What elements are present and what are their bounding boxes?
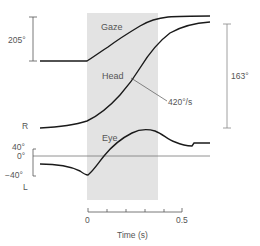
eye-0-label: 0°	[17, 151, 25, 161]
gaze-label: Gaze	[101, 22, 123, 32]
head-amplitude-bracket	[223, 24, 231, 128]
eye-label: Eye	[102, 133, 118, 143]
head-velocity-label: 420°/s	[168, 97, 192, 107]
head-amplitude-label: 163°	[231, 71, 249, 81]
eye-left-label: L	[23, 182, 28, 192]
gaze-amplitude-label: 205°	[8, 35, 26, 45]
gaze-amplitude-bracket	[29, 17, 37, 61]
gaze-head-eye-chart: Gaze Head Eye 205° 163° 420°/s R 40° 0° …	[0, 0, 260, 246]
x-axis-title: Time (s)	[117, 230, 148, 240]
eye-right-label: R	[22, 121, 28, 131]
x-tick-0: 0	[85, 215, 90, 225]
head-label: Head	[102, 71, 124, 81]
time-axis	[88, 208, 182, 212]
shaded-movement-region	[87, 13, 158, 200]
eye-neg40-label: −40°	[5, 170, 23, 180]
eye-axis-bracket	[33, 149, 36, 176]
x-tick-0-5: 0.5	[176, 215, 188, 225]
